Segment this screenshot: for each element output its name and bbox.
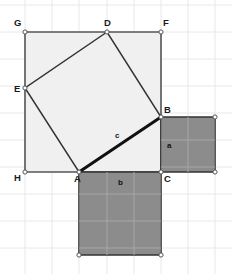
vertex-point-square-a-top-right [213, 115, 217, 119]
square-GFCH [25, 32, 161, 172]
vertex-point-c [159, 170, 163, 174]
vertex-point-h [23, 170, 27, 174]
vertex-point-square-a-bottom-right [213, 170, 217, 174]
vertex-label-h: H [14, 172, 21, 183]
vertex-label-g: G [14, 17, 21, 28]
vertex-label-a: A [74, 173, 81, 184]
vertex-point-g [23, 30, 27, 34]
vertex-label-d: D [104, 17, 111, 28]
vertex-label-e: E [14, 83, 20, 94]
vertex-point-square-b-bottom-left [77, 253, 81, 257]
side-label-c: c [115, 131, 120, 140]
pythagorean-theorem-figure: GDFEBHAC a b c [0, 0, 232, 274]
vertex-point-e [23, 86, 27, 90]
vertex-point-b [159, 115, 163, 119]
vertex-label-b: B [164, 104, 171, 115]
side-label-b: b [118, 178, 123, 187]
side-label-a: a [167, 141, 172, 150]
vertex-point-square-b-bottom-right [159, 253, 163, 257]
diagram-canvas: GDFEBHAC a b c [0, 0, 232, 274]
vertex-label-c: C [164, 173, 171, 184]
vertex-point-f [159, 30, 163, 34]
vertex-point-d [105, 30, 109, 34]
vertex-label-f: F [163, 17, 169, 28]
